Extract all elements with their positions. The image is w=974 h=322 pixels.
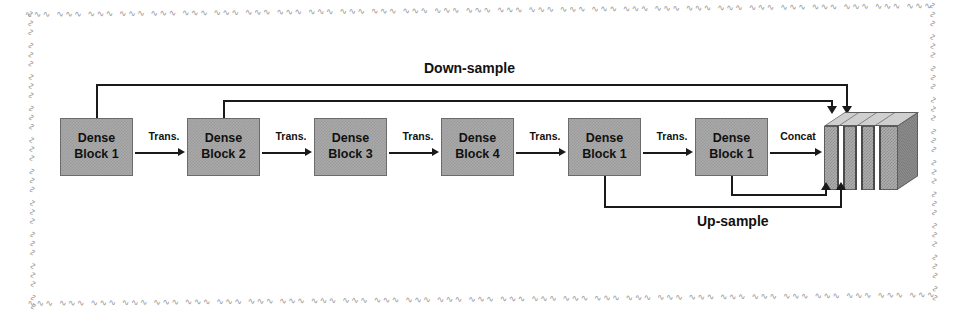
dense-block-3[interactable]: Dense Block 3 xyxy=(314,118,387,176)
upsample-1-span xyxy=(604,206,842,208)
downsample-1-riser xyxy=(96,84,98,118)
trans-label-3: Trans. xyxy=(395,130,441,142)
dense-block-4-line2: Block 4 xyxy=(455,147,499,163)
frame-right-edge: ∿∿∿ ∿∿∿ ∿∿∿ ∿∿∿ ∿∿∿ ∿∿∿ ∿∿∿ ∿∿∿ ∿∿∿ ∿∿∿ … xyxy=(926,2,940,302)
slab-divider-4 xyxy=(861,126,863,190)
trans-arrow-5-line xyxy=(643,152,687,154)
dense-block-4-line1: Dense xyxy=(459,131,497,147)
trans-arrow-5-head xyxy=(686,148,693,156)
up-sample-label: Up-sample xyxy=(697,213,769,229)
dense-block-3-line1: Dense xyxy=(332,131,370,147)
trans-arrow-1-head xyxy=(178,148,185,156)
trans-arrow-2-head xyxy=(305,148,312,156)
frame-left-edge: ∿∿∿ ∿∿∿ ∿∿∿ ∿∿∿ ∿∿∿ ∿∿∿ ∿∿∿ ∿∿∿ ∿∿∿ ∿∿∿ … xyxy=(24,10,38,310)
concat-label: Concat xyxy=(774,130,822,142)
slab-divider-2 xyxy=(843,126,845,190)
trans-arrow-3-line xyxy=(389,152,433,154)
trans-label-4: Trans. xyxy=(522,130,568,142)
trans-arrow-4-head xyxy=(559,148,566,156)
dense-block-1-line2: Block 1 xyxy=(74,147,118,163)
dense-block-6[interactable]: Dense Block 1 xyxy=(695,118,768,176)
dense-block-6-line1: Dense xyxy=(713,131,751,147)
downsample-2-riser xyxy=(223,100,225,118)
slab-divider-6 xyxy=(879,126,881,190)
downsample-2-span xyxy=(223,100,833,102)
dense-block-1-line1: Dense xyxy=(78,131,116,147)
trans-arrow-2-line xyxy=(262,152,306,154)
downsample-1-span xyxy=(96,84,848,86)
upsample-1-drop xyxy=(604,176,606,208)
frame-bottom-edge: ∿∿∿ ∿∿∿ ∿∿∿ ∿∿∿ ∿∿∿ ∿∿∿ ∿∿∿ ∿∿∿ ∿∿∿ ∿∿∿ … xyxy=(27,291,939,311)
trans-label-2: Trans. xyxy=(268,130,314,142)
trans-label-1: Trans. xyxy=(141,130,187,142)
slab-divider-3 xyxy=(855,126,857,190)
dense-block-3-line2: Block 3 xyxy=(328,147,372,163)
dense-block-5[interactable]: Dense Block 1 xyxy=(568,118,641,176)
trans-label-5: Trans. xyxy=(649,130,695,142)
concatenated-feature-volume[interactable] xyxy=(824,112,920,190)
slab-right-face xyxy=(897,112,918,190)
trans-arrow-1-line xyxy=(135,152,179,154)
trans-arrow-3-head xyxy=(432,148,439,156)
down-sample-label: Down-sample xyxy=(424,60,515,76)
upsample-1-arrowhead xyxy=(836,182,846,190)
dense-block-2-line2: Block 2 xyxy=(201,147,245,163)
slab-divider-5 xyxy=(873,126,875,190)
concat-arrow-line xyxy=(770,152,816,154)
upsample-2-arrowhead xyxy=(821,182,831,190)
slab-divider-1 xyxy=(837,126,839,190)
trans-arrow-4-line xyxy=(516,152,560,154)
dense-block-2[interactable]: Dense Block 2 xyxy=(187,118,260,176)
dense-block-5-line2: Block 1 xyxy=(582,147,626,163)
dense-block-4[interactable]: Dense Block 4 xyxy=(441,118,514,176)
dense-block-6-line2: Block 1 xyxy=(709,147,753,163)
concat-arrow-head xyxy=(815,148,822,156)
frame-top-edge: ∿∿∿ ∿∿∿ ∿∿∿ ∿∿∿ ∿∿∿ ∿∿∿ ∿∿∿ ∿∿∿ ∿∿∿ ∿∿∿ … xyxy=(25,2,937,22)
dense-block-1[interactable]: Dense Block 1 xyxy=(60,118,133,176)
upsample-2-span xyxy=(731,194,827,196)
upsample-2-drop xyxy=(731,176,733,196)
dense-block-5-line1: Dense xyxy=(586,131,624,147)
dense-block-2-line1: Dense xyxy=(205,131,243,147)
figure-canvas: ∿∿∿ ∿∿∿ ∿∿∿ ∿∿∿ ∿∿∿ ∿∿∿ ∿∿∿ ∿∿∿ ∿∿∿ ∿∿∿ … xyxy=(0,0,974,322)
